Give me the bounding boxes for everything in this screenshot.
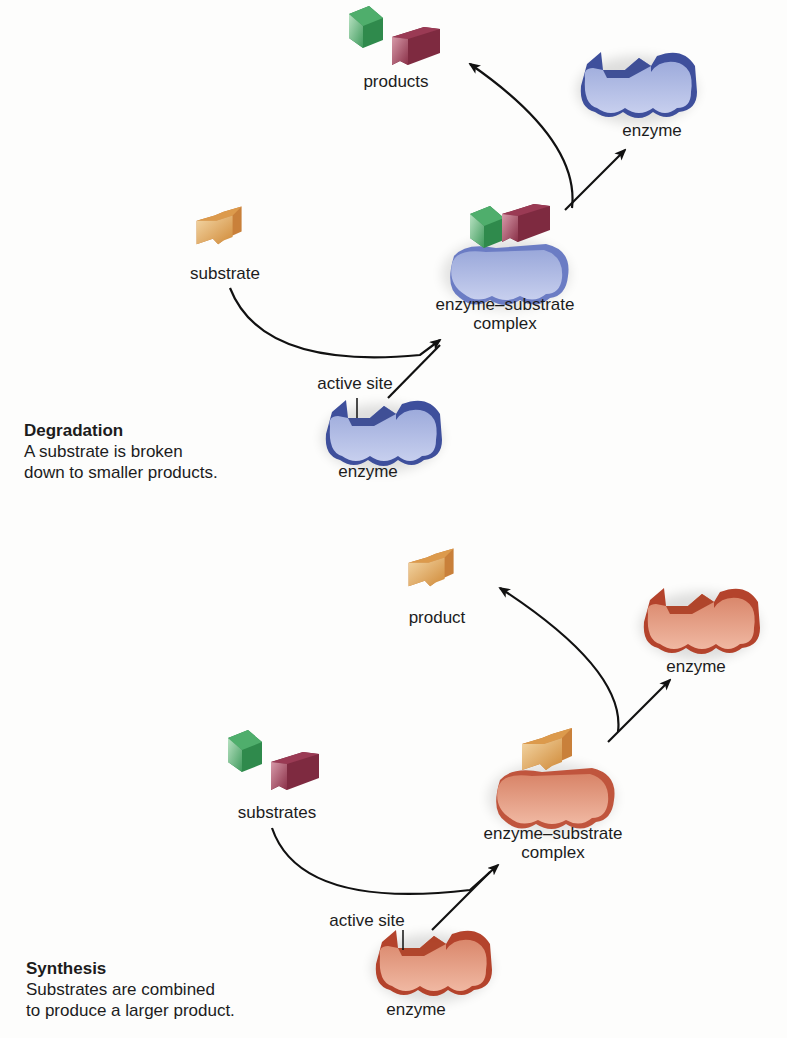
synthesis-active-site-label: active site <box>312 911 422 931</box>
degradation-enzyme-released-graphic <box>577 52 697 124</box>
synthesis-complex-label-line1: enzyme–substrate <box>458 824 648 844</box>
synthesis-enzyme-initial-graphic <box>372 930 492 1002</box>
synthesis-enzyme-initial-label: enzyme <box>376 1000 456 1020</box>
degradation-enzyme-initial-graphic <box>322 398 442 472</box>
degradation-arrows <box>230 64 625 398</box>
synthesis-enzyme-released-graphic <box>640 588 760 660</box>
products-label: products <box>346 72 446 92</box>
synthesis-complex-graphic <box>488 728 616 834</box>
enzyme-action-diagram: products enzyme substrate enzyme–substra… <box>0 0 787 1038</box>
complex-label-line1: enzyme–substrate <box>410 295 600 315</box>
substrates-label: substrates <box>222 803 332 823</box>
synthesis-title: Synthesis <box>26 959 106 979</box>
degradation-description: A substrate is broken down to smaller pr… <box>24 441 218 483</box>
active-site-label: active site <box>300 374 410 394</box>
substrate-label: substrate <box>175 264 275 284</box>
synthesis-product-graphic <box>409 548 454 586</box>
enzyme-released-label: enzyme <box>612 121 692 141</box>
degradation-substrate-graphic <box>197 206 242 244</box>
product-label: product <box>387 608 487 628</box>
diagram-graphics <box>0 0 787 1038</box>
synthesis-enzyme-released-label: enzyme <box>656 657 736 677</box>
synthesis-substrates-graphic <box>228 730 319 790</box>
synthesis-description: Substrates are combined to produce a lar… <box>26 979 235 1021</box>
synthesis-arrows <box>272 588 670 930</box>
enzyme-initial-label: enzyme <box>328 462 408 482</box>
complex-label-line2: complex <box>410 314 600 334</box>
degradation-products-graphic <box>349 6 440 65</box>
synthesis-complex-label-line2: complex <box>458 843 648 863</box>
degradation-title: Degradation <box>24 421 123 441</box>
